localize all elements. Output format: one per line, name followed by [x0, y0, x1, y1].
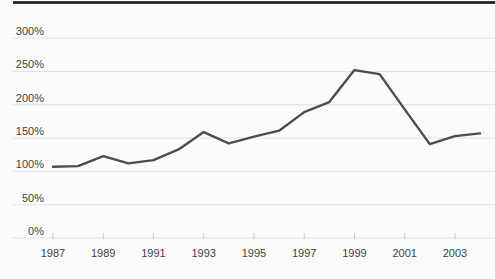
y-axis-label: 100% [16, 158, 44, 170]
x-axis-label: 1989 [91, 247, 115, 259]
x-axis-label: 1987 [41, 247, 65, 259]
x-axis-label: 2001 [392, 247, 416, 259]
chart-canvas: 0%50%100%150%200%250%300%198719891991199… [0, 0, 495, 279]
y-axis-label: 50% [22, 192, 44, 204]
y-axis-label: 150% [16, 125, 44, 137]
x-axis-label: 1999 [342, 247, 366, 259]
x-axis-label: 2003 [443, 247, 467, 259]
x-axis-label: 1995 [242, 247, 266, 259]
x-axis-label: 1997 [292, 247, 316, 259]
y-axis-label: 250% [16, 58, 44, 70]
x-axis-label: 1993 [191, 247, 215, 259]
y-axis-label: 0% [28, 225, 44, 237]
y-axis-label: 300% [16, 25, 44, 37]
x-axis-label: 1991 [141, 247, 165, 259]
y-axis-label: 200% [16, 92, 44, 104]
chart-top-border [13, 1, 495, 4]
line-chart: 0%50%100%150%200%250%300%198719891991199… [0, 0, 495, 279]
